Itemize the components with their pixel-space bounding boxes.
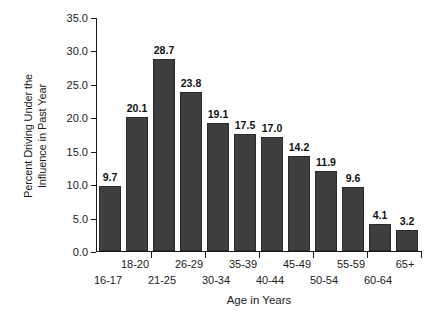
- y-axis-tick-label: 5.0: [73, 213, 88, 225]
- bar-value-label: 9.6: [341, 172, 365, 184]
- bar-rect[interactable]: [99, 186, 121, 251]
- y-axis-title: Percent Driving Under the Influence in P…: [14, 18, 54, 254]
- x-axis-tick-label: 30-34: [193, 274, 239, 286]
- bar-item[interactable]: 19.1: [206, 17, 233, 251]
- x-axis-tick-label: 50-54: [301, 274, 347, 286]
- bar-rect[interactable]: [369, 224, 391, 251]
- bar-item[interactable]: 20.1: [125, 17, 152, 251]
- x-axis-tick-labels: 16-1718-2021-2526-2930-3435-3940-4445-49…: [96, 258, 422, 292]
- x-axis-tick-label: 65+: [382, 258, 428, 270]
- y-axis-tick-label: 30.0: [67, 45, 88, 57]
- y-axis-tick-label: 15.0: [67, 146, 88, 158]
- bar-item[interactable]: 23.8: [179, 17, 206, 251]
- x-axis-title: Age in Years: [96, 294, 422, 306]
- bar-rect[interactable]: [153, 59, 175, 251]
- bar-item[interactable]: 9.6: [341, 17, 368, 251]
- y-axis-title-line-2: Influence in Past Year: [36, 84, 48, 188]
- bar-item[interactable]: 14.2: [287, 17, 314, 251]
- x-axis-tick-label: 35-39: [220, 258, 266, 270]
- y-axis-tick-label: 10.0: [67, 179, 88, 191]
- x-axis-tick-label: 60-64: [355, 274, 401, 286]
- y-axis-tick-mark: [91, 85, 96, 86]
- x-axis-tick-label: 55-59: [328, 258, 374, 270]
- y-axis-tick-mark: [91, 185, 96, 186]
- y-axis-tick-mark: [91, 51, 96, 52]
- bar-rect[interactable]: [234, 134, 256, 251]
- plot-area: 0.05.010.015.020.025.030.035.0 9.720.128…: [96, 18, 422, 252]
- y-axis-tick-label: 0.0: [73, 246, 88, 258]
- bar-rect[interactable]: [261, 137, 283, 251]
- bar-value-label: 17.5: [233, 119, 257, 131]
- x-axis-tick-label: 26-29: [166, 258, 212, 270]
- y-axis-tick-mark: [91, 18, 96, 19]
- bar-rect[interactable]: [126, 117, 148, 251]
- bar-value-label: 9.7: [98, 171, 122, 183]
- bar-value-label: 17.0: [260, 122, 284, 134]
- bar-item[interactable]: 17.5: [233, 17, 260, 251]
- y-axis-tick-label: 35.0: [67, 12, 88, 24]
- y-axis-tick-mark: [91, 152, 96, 153]
- bar-rect[interactable]: [180, 92, 202, 251]
- bar-rect[interactable]: [342, 187, 364, 251]
- bar-rect[interactable]: [396, 230, 418, 251]
- bar-item[interactable]: 4.1: [368, 17, 395, 251]
- bar-item[interactable]: 11.9: [314, 17, 341, 251]
- x-axis-tick-label: 21-25: [139, 274, 185, 286]
- bar-series: 9.720.128.723.819.117.517.014.211.99.64.…: [97, 18, 422, 251]
- bar-rect[interactable]: [207, 123, 229, 251]
- y-axis-tick-label: 25.0: [67, 79, 88, 91]
- bar-item[interactable]: 28.7: [152, 17, 179, 251]
- bar-value-label: 28.7: [152, 44, 176, 56]
- y-axis-tick-mark: [91, 252, 96, 253]
- x-axis-tick-label: 16-17: [85, 274, 131, 286]
- x-axis-tick-label: 18-20: [112, 258, 158, 270]
- bar-chart: Percent Driving Under the Influence in P…: [0, 0, 439, 320]
- bar-item[interactable]: 9.7: [98, 17, 125, 251]
- bar-item[interactable]: 17.0: [260, 17, 287, 251]
- y-axis-title-line-1: Percent Driving Under the: [22, 74, 34, 198]
- bar-value-label: 23.8: [179, 77, 203, 89]
- bar-value-label: 11.9: [314, 156, 338, 168]
- y-axis-tick-mark: [91, 219, 96, 220]
- bar-item[interactable]: 3.2: [395, 17, 422, 251]
- bar-value-label: 14.2: [287, 141, 311, 153]
- bar-value-label: 19.1: [206, 108, 230, 120]
- bar-value-label: 4.1: [368, 209, 392, 221]
- bar-value-label: 20.1: [125, 102, 149, 114]
- x-axis-tick-label: 40-44: [247, 274, 293, 286]
- bar-value-label: 3.2: [395, 215, 419, 227]
- bar-rect[interactable]: [315, 171, 337, 251]
- bar-rect[interactable]: [288, 156, 310, 251]
- y-axis-tick-label: 20.0: [67, 112, 88, 124]
- x-axis-tick-label: 45-49: [274, 258, 320, 270]
- y-axis-tick-mark: [91, 118, 96, 119]
